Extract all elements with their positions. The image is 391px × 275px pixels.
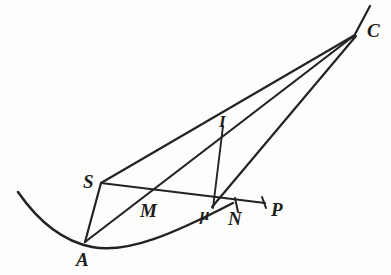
- segment-S-C: [101, 35, 355, 183]
- segment-mu-C: [212, 36, 356, 207]
- point-label-mu: μ: [200, 206, 209, 223]
- point-label-A: A: [76, 250, 89, 269]
- point-label-N: N: [228, 209, 242, 228]
- geometric-figure: A S M I μ N P C: [0, 0, 391, 275]
- point-label-P: P: [271, 200, 283, 219]
- point-label-S: S: [83, 172, 94, 191]
- point-label-I: I: [219, 113, 226, 130]
- segment-S-P: [101, 183, 265, 203]
- figure-canvas: [0, 0, 391, 275]
- point-label-M: M: [140, 201, 157, 220]
- point-label-C: C: [367, 21, 380, 40]
